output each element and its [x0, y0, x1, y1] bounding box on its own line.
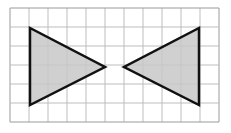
grid-diagram [0, 0, 231, 133]
